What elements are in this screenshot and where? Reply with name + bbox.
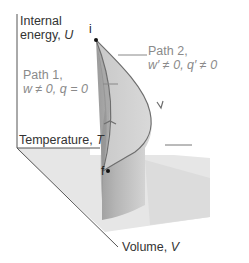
energy-axis-label-line2: energy, U bbox=[20, 28, 73, 42]
volume-axis-label: Volume, V bbox=[122, 240, 179, 254]
path-2-condition: w′ ≠ 0, q′ ≠ 0 bbox=[148, 58, 217, 72]
initial-point bbox=[94, 38, 98, 42]
path-1-condition: w ≠ 0, q = 0 bbox=[23, 82, 88, 96]
path-1-label: Path 1, w ≠ 0, q = 0 bbox=[23, 68, 88, 96]
path-2-arrow-icon bbox=[157, 101, 163, 108]
path-2-name: Path 2, bbox=[148, 44, 217, 58]
temperature-axis-label: Temperature, T bbox=[19, 133, 104, 147]
final-point-label: f bbox=[101, 164, 104, 178]
volume-symbol: V bbox=[171, 240, 179, 254]
temperature-symbol: T bbox=[96, 133, 104, 147]
energy-symbol: U bbox=[64, 28, 73, 42]
initial-point-label: i bbox=[89, 22, 92, 36]
final-point bbox=[106, 169, 110, 173]
energy-axis-label: Internal energy, U bbox=[20, 14, 73, 42]
energy-axis-label-line1: Internal bbox=[20, 14, 73, 28]
path-2-label: Path 2, w′ ≠ 0, q′ ≠ 0 bbox=[148, 44, 217, 72]
path-1-name: Path 1, bbox=[23, 68, 88, 82]
